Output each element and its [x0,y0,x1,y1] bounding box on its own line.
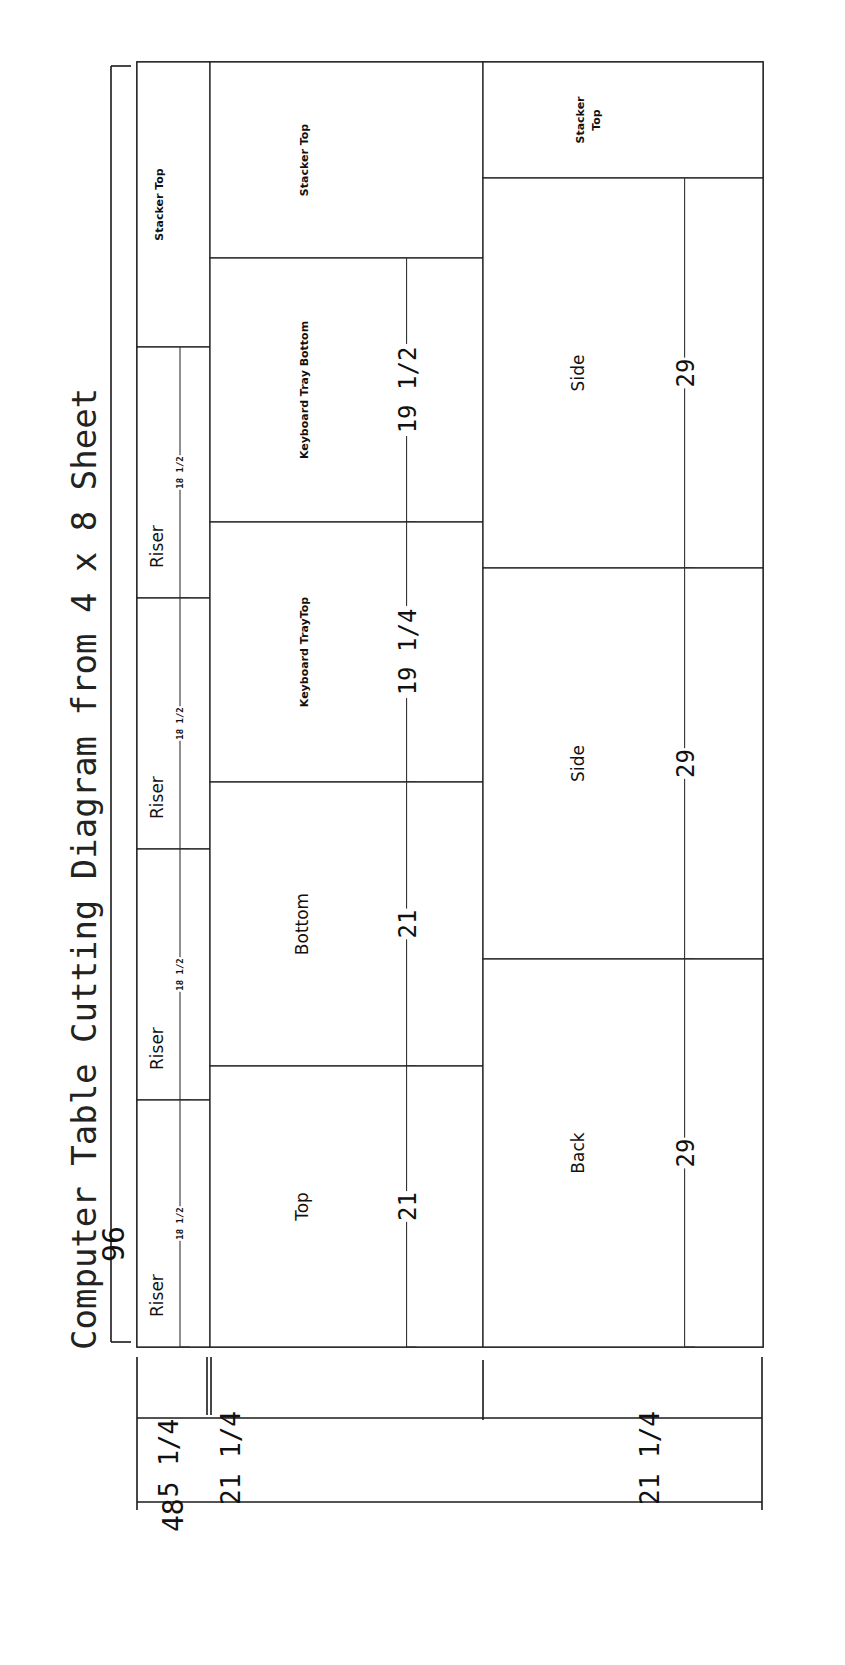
piece-keyboard-traytop: Keyboard TrayTop19 1/4 [210,522,483,782]
width-dimension-label: 21 1/4 [635,1411,665,1505]
piece-dimension: 21 [394,1192,422,1221]
piece-label: Side [568,745,588,782]
piece-top: Top21 [210,1066,483,1347]
piece-dimension: 18 1/2 [175,958,185,991]
width-dimension-label: 5 1/4 [154,1419,184,1497]
piece-label: Riser [147,776,167,819]
piece-riser: Riser18 1/2 [137,347,210,598]
piece-label: Stacker Top [153,168,166,240]
piece-dimension: 19 1/2 [394,347,422,434]
piece-back: Back29 [483,959,763,1347]
piece-riser: Riser18 1/2 [137,1100,210,1347]
piece-label: Riser [147,1027,167,1070]
width-dimension-label: 21 1/4 [216,1411,246,1505]
sheet-width-label: 48 [157,1498,190,1532]
piece-label: Top [292,1192,312,1222]
cutting-diagram: Computer Table Cutting Diagram from 4 x … [0,0,845,1665]
diagram-title: Computer Table Cutting Diagram from 4 x … [64,388,104,1350]
piece-riser: Riser18 1/2 [137,849,210,1100]
piece-label: Stacker Top [298,124,311,196]
svg-text:Computer Table Cutting Diagram: Computer Table Cutting Diagram from 4 x … [64,388,104,1350]
piece-stacker-top: Stacker Top [137,62,210,347]
piece-label: Riser [147,1274,167,1317]
piece-label: Riser [147,525,167,568]
piece-keyboard-tray-bottom: Keyboard Tray Bottom19 1/2 [210,258,483,522]
piece-side: Side29 [483,178,763,568]
piece-dimension: 29 [672,749,700,778]
piece-dimension: 18 1/2 [175,707,185,740]
length-dimension-label: 96 [96,1226,131,1262]
piece-label: Keyboard TrayTop [298,597,311,708]
pieces-layer: Stacker TopRiser18 1/2Riser18 1/2Riser18… [137,62,763,1347]
piece-dimension: 18 1/2 [175,1207,185,1240]
piece-label: Bottom [292,893,312,955]
piece-stacker-top: Stacker Top [210,62,483,258]
piece-dimension: 29 [672,359,700,388]
piece-stacker-top: StackerTop [483,62,763,178]
piece-dimension: 21 [394,910,422,939]
piece-dimension: 29 [672,1139,700,1168]
piece-riser: Riser18 1/2 [137,598,210,849]
width-dimension: 5 1/421 1/421 1/4 48 [137,1357,762,1532]
piece-dimension: 19 1/4 [394,609,422,696]
piece-bottom: Bottom21 [210,782,483,1066]
piece-label: Keyboard Tray Bottom [298,321,311,459]
piece-side: Side29 [483,568,763,959]
piece-label: Back [568,1132,588,1173]
piece-label: Side [568,355,588,392]
piece-label: Stacker [574,96,587,144]
piece-label: Top [590,109,603,131]
piece-dimension: 18 1/2 [175,456,185,489]
